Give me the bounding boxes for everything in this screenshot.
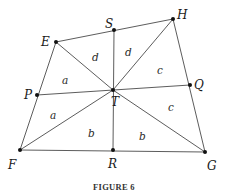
region-label-c-upper: c <box>157 64 163 76</box>
label-P: P <box>23 88 33 102</box>
point-R <box>111 148 115 152</box>
region-label-d-left: d <box>92 51 99 63</box>
label-F: F <box>7 158 17 172</box>
quadrilateral-figure: E S H Q G R F P T d d c c a a b b FIGURE… <box>0 0 229 194</box>
segment-TG <box>113 90 205 152</box>
region-label-a-upper: a <box>62 74 68 86</box>
label-H: H <box>176 8 188 22</box>
region-label-c-lower: c <box>168 101 174 113</box>
label-Q: Q <box>194 78 204 92</box>
region-label-a-lower: a <box>50 109 56 121</box>
point-G <box>203 150 207 154</box>
point-F <box>18 148 22 152</box>
point-Q <box>188 83 192 87</box>
segment-TF <box>20 90 113 150</box>
label-R: R <box>107 157 117 171</box>
label-S: S <box>105 17 113 31</box>
point-P <box>35 93 39 97</box>
label-T: T <box>111 95 120 109</box>
label-E: E <box>40 35 50 49</box>
point-H <box>171 17 175 21</box>
figure-caption: FIGURE 6 <box>93 182 135 192</box>
point-E <box>54 40 58 44</box>
label-G: G <box>207 159 217 173</box>
region-label-d-right: d <box>125 46 132 58</box>
region-label-b-right: b <box>139 130 146 142</box>
point-T <box>111 88 115 92</box>
region-label-b-left: b <box>88 127 95 139</box>
segment-HT <box>113 19 173 90</box>
